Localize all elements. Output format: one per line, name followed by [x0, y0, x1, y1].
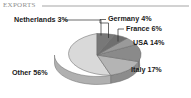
figure-title: EXPORTS — [3, 1, 36, 9]
header-divider-rule — [42, 5, 189, 7]
pie-label-other: Other 56% — [12, 69, 48, 77]
pie-label-netherlands: Netherlands 3% — [14, 16, 68, 24]
pie-label-france: France 6% — [126, 25, 162, 33]
pie-chart-area: Netherlands 3% Germany 4% France 6% USA … — [0, 11, 191, 98]
leader-line-netherlands — [64, 20, 101, 36]
exports-pie-chart-figure: EXPORTS — [0, 0, 191, 98]
pie-label-usa: USA 14% — [133, 39, 164, 47]
pie-label-italy: Italy 17% — [131, 66, 162, 74]
pie-chart-svg — [0, 11, 191, 98]
pie-label-germany: Germany 4% — [108, 15, 152, 23]
